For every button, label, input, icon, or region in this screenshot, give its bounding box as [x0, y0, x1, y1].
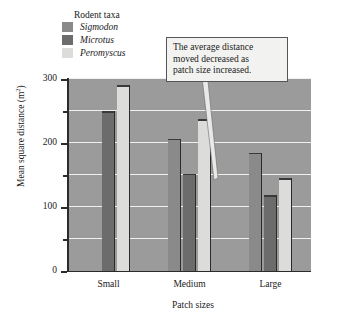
- legend: Rodent taxa Sigmodon Microtus Peromyscus: [62, 10, 126, 59]
- legend-swatch-peromyscus: [62, 48, 73, 58]
- legend-item-sigmodon: Sigmodon: [62, 21, 126, 33]
- figure-container: Rodent taxa Sigmodon Microtus Peromyscus…: [0, 0, 341, 324]
- x-axis-label: Patch sizes: [133, 300, 253, 310]
- callout-line-1: The average distance: [173, 42, 282, 54]
- y-axis-label-text: Mean square distance (m: [16, 92, 26, 187]
- x-axis-line: [67, 271, 311, 273]
- x-tick-label-small: Small: [74, 279, 144, 289]
- callout-line-2: moved decreased as: [173, 54, 282, 66]
- legend-label-peromyscus: Peromyscus: [80, 48, 126, 58]
- y-tick-label: 300: [31, 73, 57, 83]
- y-tick-minor: [63, 239, 67, 241]
- y-tick-label: 0: [31, 265, 57, 275]
- legend-label-sigmodon: Sigmodon: [80, 22, 118, 32]
- y-tick-major: [61, 207, 67, 209]
- y-tick-minor: [63, 175, 67, 177]
- bar-microtus-large: [264, 195, 277, 271]
- bar-top-edge: [117, 85, 129, 87]
- y-tick-major: [61, 79, 67, 81]
- bar-top-edge: [102, 111, 114, 113]
- y-axis-label-paren: ): [16, 85, 26, 88]
- y-tick-minor: [63, 111, 67, 113]
- callout-annotation: The average distance moved decreased as …: [166, 37, 288, 82]
- y-axis-line: [67, 78, 69, 272]
- legend-title: Rodent taxa: [74, 10, 126, 20]
- bar-microtus-small: [102, 111, 115, 271]
- legend-item-microtus: Microtus: [62, 34, 126, 46]
- y-tick-major: [61, 143, 67, 145]
- y-tick-label: 200: [31, 137, 57, 147]
- legend-label-microtus: Microtus: [80, 35, 114, 45]
- x-tick-label-large: Large: [236, 279, 306, 289]
- y-tick-major: [61, 271, 67, 273]
- y-axis-label-exponent: 2: [14, 88, 21, 91]
- bar-peromyscus-large: [279, 178, 292, 271]
- callout-line-3: patch size increased.: [173, 65, 282, 77]
- legend-item-peromyscus: Peromyscus: [62, 47, 126, 59]
- bar-top-edge: [264, 195, 276, 197]
- legend-swatch-sigmodon: [62, 22, 73, 32]
- y-tick-label: 100: [31, 201, 57, 211]
- y-axis-label: Mean square distance (m2): [14, 56, 26, 216]
- bar-peromyscus-small: [117, 85, 130, 271]
- legend-swatch-microtus: [62, 35, 73, 45]
- x-tick-label-medium: Medium: [155, 279, 225, 289]
